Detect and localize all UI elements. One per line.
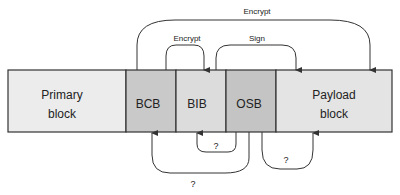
osb-label: OSB xyxy=(236,97,261,111)
osb-to-bcb-query-arrow xyxy=(152,132,249,173)
payload-label-2: block xyxy=(320,107,349,121)
bundle-diagram: Primary block BCB BIB OSB Payload block … xyxy=(0,0,400,195)
bib-label: BIB xyxy=(187,97,206,111)
sign-label: Sign xyxy=(249,34,265,43)
osb-to-payload-query-label: ? xyxy=(283,155,288,165)
encrypt-inner-arrow xyxy=(166,45,204,70)
primary-label-1: Primary xyxy=(41,88,82,102)
sign-arrow xyxy=(216,45,296,70)
encrypt-inner-label: Encrypt xyxy=(173,34,201,43)
payload-label-1: Payload xyxy=(312,88,355,102)
osb-to-bcb-query-label: ? xyxy=(190,179,195,189)
encrypt-outer-label: Encrypt xyxy=(243,7,271,16)
osb-to-bib-query-label: ? xyxy=(213,141,218,151)
bcb-label: BCB xyxy=(136,97,161,111)
primary-label-2: block xyxy=(48,107,77,121)
